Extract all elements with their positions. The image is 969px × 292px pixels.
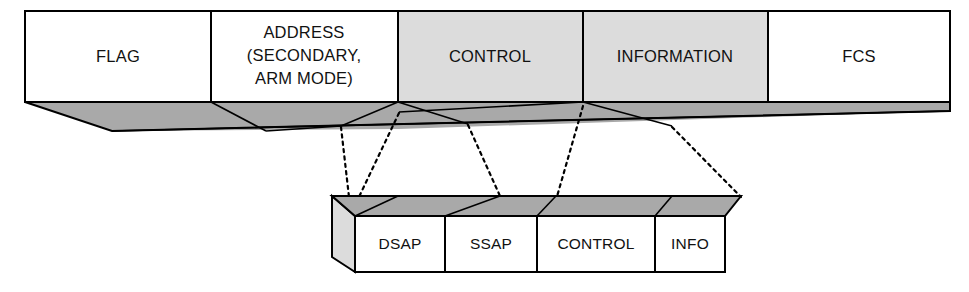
- main-cell-flag[interactable]: FLAG: [25, 11, 211, 102]
- frame-structure-diagram: FLAG ADDRESS (SECONDARY, ARM MODE) CONTR…: [0, 0, 969, 292]
- connector-info-right-icon: [672, 127, 741, 197]
- sub-cell-ssap-label: SSAP: [470, 235, 512, 252]
- main-cell-information-label: INFORMATION: [617, 47, 733, 65]
- sub-cell-control-label: CONTROL: [557, 235, 634, 252]
- sub-cell-control[interactable]: CONTROL: [537, 216, 655, 272]
- main-cell-address-label-line1: ADDRESS: [263, 23, 344, 41]
- sub-frame: DSAP SSAP CONTROL INFO: [332, 196, 741, 272]
- main-cell-address-label-line3: ARM MODE): [255, 69, 353, 87]
- main-cell-fcs[interactable]: FCS: [768, 11, 950, 102]
- sub-cell-dsap-label: DSAP: [378, 235, 421, 252]
- main-frame-perspective-band: [25, 102, 950, 131]
- main-cell-address[interactable]: ADDRESS (SECONDARY, ARM MODE): [211, 11, 398, 102]
- diagram-canvas: FLAG ADDRESS (SECONDARY, ARM MODE) CONTR…: [0, 0, 969, 292]
- sub-cell-ssap[interactable]: SSAP: [445, 216, 537, 272]
- main-cell-control-label: CONTROL: [449, 47, 531, 65]
- main-cell-fcs-label: FCS: [842, 47, 876, 65]
- main-cell-address-label-line2: (SECONDARY,: [247, 46, 361, 64]
- main-cell-flag-label: FLAG: [96, 47, 140, 65]
- main-frame-cells: FLAG ADDRESS (SECONDARY, ARM MODE) CONTR…: [25, 11, 950, 102]
- main-cell-control[interactable]: CONTROL: [398, 11, 583, 102]
- connector-dsap-left-icon: [341, 127, 349, 197]
- sub-cell-info[interactable]: INFO: [655, 216, 725, 272]
- band-fill-main-2: [25, 102, 950, 131]
- main-cell-information[interactable]: INFORMATION: [583, 11, 768, 102]
- sub-cell-info-label: INFO: [671, 235, 709, 252]
- sub-cell-dsap[interactable]: DSAP: [355, 216, 445, 272]
- connector-ssap-right-icon: [468, 125, 500, 196]
